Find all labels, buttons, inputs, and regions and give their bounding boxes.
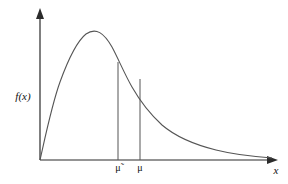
x-axis-label: x <box>270 165 282 176</box>
figure-container: f(x) x μ̃ μ <box>0 0 288 184</box>
density-curve <box>40 31 272 160</box>
median-tick-label: μ̃ <box>109 163 127 173</box>
arrow-up-icon <box>36 8 44 19</box>
mean-tick-label: μ <box>131 163 149 173</box>
y-axis-label: f(x) <box>10 91 36 102</box>
plot-canvas <box>0 0 288 184</box>
